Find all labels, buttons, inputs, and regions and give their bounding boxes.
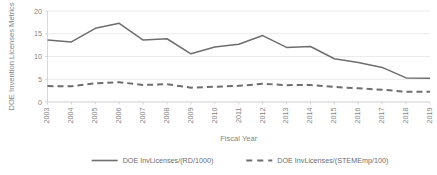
y-tick-label: 10 bbox=[34, 52, 42, 61]
x-tick-label: 2019 bbox=[425, 108, 434, 124]
legend-label-1[interactable]: DOE InvLicenses/(RD/1000) bbox=[123, 156, 214, 165]
x-tick-label: 2010 bbox=[210, 108, 219, 124]
chart-figure: 0510152020032004200520062007200820092010… bbox=[0, 0, 437, 175]
x-tick-label: 2015 bbox=[329, 108, 338, 124]
x-tick-label: 2017 bbox=[377, 108, 386, 124]
series-line-1 bbox=[48, 23, 431, 78]
line-chart: 0510152020032004200520062007200820092010… bbox=[0, 0, 437, 175]
x-tick-label: 2012 bbox=[258, 108, 267, 124]
x-tick-label: 2013 bbox=[281, 108, 290, 124]
x-tick-label: 2014 bbox=[305, 108, 314, 124]
x-tick-label: 2011 bbox=[234, 108, 243, 123]
y-tick-label: 20 bbox=[34, 7, 42, 16]
x-tick-label: 2018 bbox=[401, 108, 410, 124]
y-axis-title: DOE Invention Licenses Metrics bbox=[7, 2, 16, 110]
x-tick-label: 2004 bbox=[66, 108, 75, 124]
y-tick-label: 0 bbox=[38, 98, 42, 107]
x-axis-title: Fiscal Year bbox=[220, 134, 258, 143]
y-tick-label: 15 bbox=[34, 29, 42, 38]
x-tick-label: 2016 bbox=[353, 108, 362, 124]
legend-label-2[interactable]: DOE InvLicenses/(STEMEmp/100) bbox=[277, 156, 388, 165]
series-line-2 bbox=[48, 82, 431, 92]
x-tick-label: 2009 bbox=[186, 108, 195, 124]
x-tick-label: 2003 bbox=[42, 108, 51, 124]
y-tick-label: 5 bbox=[38, 75, 42, 84]
x-tick-label: 2008 bbox=[162, 108, 171, 124]
x-tick-label: 2007 bbox=[138, 108, 147, 124]
x-tick-label: 2006 bbox=[114, 108, 123, 124]
x-tick-label: 2005 bbox=[90, 108, 99, 124]
